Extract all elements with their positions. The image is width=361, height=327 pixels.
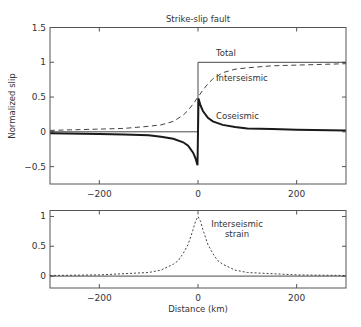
x-tick-label: 0 bbox=[195, 189, 201, 199]
series-interseismic-strain bbox=[50, 217, 346, 276]
y-tick-label: 0.5 bbox=[32, 92, 46, 102]
annotation-coseismic: Coseismic bbox=[216, 111, 259, 121]
annotation-total: Total bbox=[215, 48, 236, 58]
y-tick-label: 0.5 bbox=[32, 241, 46, 251]
top-ylabel: Normalized slip bbox=[7, 73, 17, 138]
y-tick-label: 1.5 bbox=[32, 23, 46, 33]
annotation-interseismic-strain-1: Interseismic bbox=[211, 219, 263, 229]
bottom-x-ticks: −2000200 bbox=[87, 211, 306, 304]
x-tick-label: 200 bbox=[288, 293, 305, 303]
bottom-panel: 00.51 −2000200 Interseismic strain Dista… bbox=[32, 211, 346, 315]
top-title: Strike-slip fault bbox=[166, 14, 231, 24]
y-tick-label: 1 bbox=[40, 211, 46, 221]
top-y-ticks: −0.500.511.5 bbox=[24, 23, 346, 172]
y-tick-label: 0 bbox=[40, 127, 46, 137]
annotation-interseismic: Interseismic bbox=[216, 73, 268, 83]
top-panel: Strike-slip fault Normalized slip −0.500… bbox=[7, 14, 346, 199]
y-tick-label: 0 bbox=[40, 271, 46, 281]
y-tick-label: 1 bbox=[40, 57, 46, 67]
annotation-interseismic-strain-2: strain bbox=[225, 229, 249, 239]
bottom-series bbox=[50, 217, 346, 277]
y-tick-label: −0.5 bbox=[24, 162, 46, 172]
bottom-xlabel: Distance (km) bbox=[168, 304, 228, 314]
bottom-y-ticks: 00.51 bbox=[32, 211, 346, 281]
figure: Strike-slip fault Normalized slip −0.500… bbox=[0, 0, 361, 327]
x-tick-label: 0 bbox=[195, 293, 201, 303]
x-tick-label: −200 bbox=[87, 189, 112, 199]
top-x-ticks: −2000200 bbox=[87, 28, 306, 200]
x-tick-label: 200 bbox=[288, 189, 305, 199]
top-series bbox=[50, 62, 346, 165]
x-tick-label: −200 bbox=[87, 293, 112, 303]
